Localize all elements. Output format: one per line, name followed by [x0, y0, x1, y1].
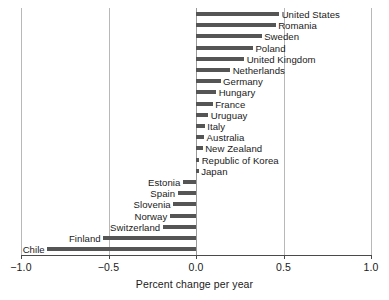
bar [196, 34, 262, 38]
x-axis-tick [109, 255, 110, 259]
bar [183, 180, 196, 184]
x-axis-tick-label: −1.0 [10, 261, 32, 273]
x-axis-tick [284, 255, 285, 259]
bar [196, 23, 276, 27]
bar [178, 191, 196, 195]
x-axis-tick [196, 255, 197, 259]
bar [196, 113, 208, 117]
x-axis-tick-label: 1.0 [363, 261, 378, 273]
bar [196, 169, 199, 173]
bar [196, 46, 253, 50]
plot-area: United StatesRomaniaSwedenPolandUnited K… [21, 8, 371, 255]
gridline [371, 8, 372, 255]
bar [196, 102, 213, 106]
x-axis-tick-label: −0.5 [98, 261, 120, 273]
bar [163, 225, 196, 229]
x-axis-title: Percent change per year [0, 278, 389, 290]
bar [196, 146, 203, 150]
bar [196, 135, 204, 139]
bar [196, 79, 221, 83]
bar [196, 57, 244, 61]
bar [103, 236, 196, 240]
bar [196, 158, 199, 162]
horizontal-bar-chart: United StatesRomaniaSwedenPolandUnited K… [0, 0, 389, 300]
x-axis-tick-label: 0.0 [188, 261, 203, 273]
bar [173, 202, 196, 206]
x-axis-tick [371, 255, 372, 259]
bar [47, 247, 196, 251]
bar [196, 124, 205, 128]
bar [196, 12, 279, 16]
bar [170, 214, 196, 218]
x-axis-tick-label: 0.5 [276, 261, 291, 273]
x-axis-tick [21, 255, 22, 259]
bar [196, 68, 230, 72]
bar [196, 90, 216, 94]
